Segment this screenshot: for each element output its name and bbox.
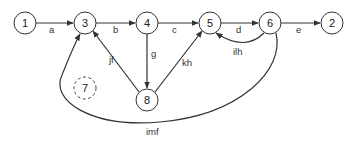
- edge-label-ilh: ilh: [233, 46, 243, 57]
- node-8-label: 8: [144, 94, 150, 106]
- edge-label-c: c: [172, 24, 177, 35]
- node-5: 5: [199, 12, 221, 34]
- diagram-svg: 1 3 4 5 6 2 7 8 a b c d e g jf kh ilh im…: [0, 0, 356, 145]
- edge-6-3-curve: [60, 33, 277, 123]
- node-3: 3: [74, 12, 96, 34]
- edge-label-a: a: [49, 24, 55, 35]
- node-6: 6: [259, 12, 281, 34]
- node-1: 1: [14, 12, 36, 34]
- node-4: 4: [136, 12, 158, 34]
- node-2: 2: [321, 12, 343, 34]
- node-1-label: 1: [22, 17, 28, 29]
- edge-8-5: [155, 31, 202, 92]
- edge-label-d: d: [236, 24, 241, 35]
- edge-label-e: e: [296, 24, 301, 35]
- edge-label-g: g: [151, 48, 156, 59]
- node-7-label: 7: [82, 82, 88, 94]
- edge-label-imf: imf: [146, 126, 159, 137]
- flow-graph-diagram: 1 3 4 5 6 2 7 8 a b c d e g jf kh ilh im…: [0, 0, 356, 145]
- node-2-label: 2: [329, 17, 335, 29]
- node-4-label: 4: [144, 17, 150, 29]
- edge-label-jf: jf: [108, 54, 114, 65]
- node-5-label: 5: [207, 17, 213, 29]
- node-3-label: 3: [82, 17, 88, 29]
- node-8: 8: [136, 89, 158, 111]
- edge-label-b: b: [113, 24, 118, 35]
- edge-label-kh: kh: [182, 57, 192, 68]
- node-6-label: 6: [267, 17, 273, 29]
- edge-8-3: [93, 31, 139, 92]
- node-7-dashed: 7: [74, 77, 96, 99]
